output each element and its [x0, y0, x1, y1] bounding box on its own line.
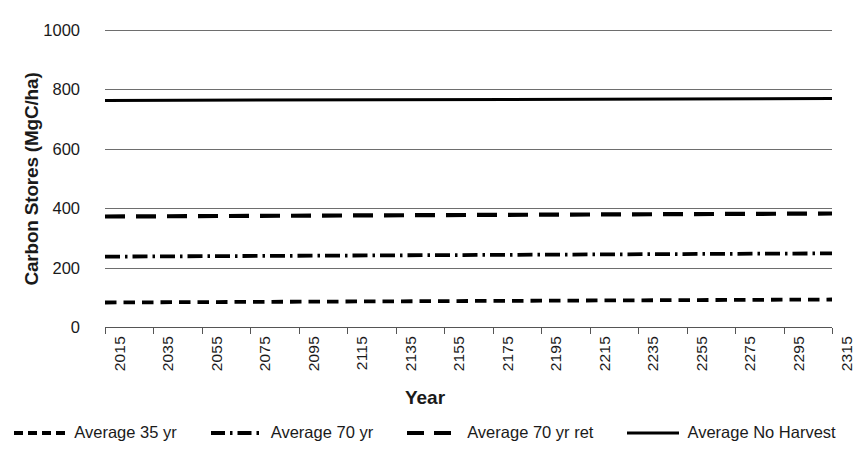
- x-tick-label: 2175: [499, 336, 517, 371]
- series-line-average-no-harvest: [105, 97, 832, 102]
- gridline-800: [105, 89, 832, 90]
- gridline-1000: [105, 30, 832, 31]
- legend-item-average-35-yr[interactable]: Average 35 yr: [14, 423, 176, 442]
- legend-swatch-solid-icon: [627, 428, 679, 438]
- x-tick-label: 2155: [450, 336, 468, 371]
- x-tick: [347, 328, 348, 334]
- x-tick: [590, 328, 591, 334]
- legend-label: Average 70 yr ret: [467, 423, 593, 442]
- x-tick: [735, 328, 736, 334]
- x-tick-label: 2075: [256, 336, 274, 371]
- x-tick: [687, 328, 688, 334]
- y-tick-label: 200: [20, 258, 80, 277]
- legend-label: Average 70 yr: [271, 423, 373, 442]
- x-tick: [299, 328, 300, 334]
- series-line-average-35-yr: [105, 298, 832, 305]
- x-tick: [832, 328, 833, 334]
- gridline-200: [105, 268, 832, 269]
- y-tick-label: 0: [20, 318, 80, 337]
- x-tick: [444, 328, 445, 334]
- x-tick: [541, 328, 542, 334]
- x-tick: [396, 328, 397, 334]
- x-tick: [638, 328, 639, 334]
- legend-swatch-longdash-icon: [407, 428, 459, 438]
- x-tick-label: 2055: [208, 336, 226, 371]
- x-tick-label: 2035: [159, 336, 177, 371]
- chart-legend: Average 35 yrAverage 70 yrAverage 70 yr …: [0, 423, 850, 442]
- y-tick-label: 600: [20, 139, 80, 158]
- plot-area: 10008006004002000: [105, 30, 832, 327]
- legend-label: Average 35 yr: [74, 423, 176, 442]
- y-axis-title: Carbon Stores (MgC/ha): [21, 19, 43, 339]
- gridline-600: [105, 149, 832, 150]
- x-tick: [493, 328, 494, 334]
- y-tick-label: 800: [20, 80, 80, 99]
- legend-swatch-shortdash-icon: [14, 428, 66, 438]
- x-tick: [105, 328, 106, 334]
- series-line-average-70-yr-ret: [105, 211, 832, 218]
- legend-item-average-70-yr-ret[interactable]: Average 70 yr ret: [407, 423, 593, 442]
- legend-label: Average No Harvest: [687, 423, 835, 442]
- x-tick-label: 2115: [353, 336, 371, 370]
- x-tick-label: 2275: [741, 336, 759, 371]
- y-tick-label: 400: [20, 199, 80, 218]
- gridline-400: [105, 208, 832, 209]
- legend-swatch-dashdot-icon: [211, 428, 263, 438]
- x-tick-label: 2235: [644, 336, 662, 371]
- x-tick-label: 2095: [305, 336, 323, 371]
- legend-item-average-no-harvest[interactable]: Average No Harvest: [627, 423, 835, 442]
- x-tick-label: 2255: [693, 336, 711, 371]
- x-tick-label: 2295: [790, 336, 808, 371]
- legend-item-average-70-yr[interactable]: Average 70 yr: [211, 423, 373, 442]
- x-axis-title: Year: [0, 387, 850, 409]
- x-tick: [250, 328, 251, 334]
- x-tick: [202, 328, 203, 334]
- x-axis: 2015203520552075209521152135215521752195…: [105, 327, 832, 328]
- x-tick-label: 2215: [596, 336, 614, 371]
- x-tick-label: 2015: [111, 336, 129, 371]
- y-tick-label: 1000: [20, 21, 80, 40]
- x-tick: [153, 328, 154, 334]
- series-line-average-70-yr: [105, 252, 832, 259]
- x-tick-label: 2315: [838, 336, 856, 371]
- x-tick: [784, 328, 785, 334]
- x-tick-label: 2135: [402, 336, 420, 371]
- x-tick-label: 2195: [547, 336, 565, 371]
